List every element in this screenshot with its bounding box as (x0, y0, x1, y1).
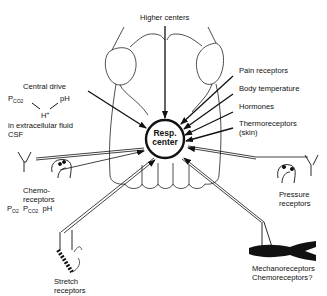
central-drive-extracellular: in extracellular fluid (8, 121, 73, 130)
pressure-receptor-vessels-icon (278, 155, 318, 183)
h-ion-charge: + (46, 110, 49, 116)
chemoreceptors-line2: receptors (23, 195, 55, 204)
pco2-subscript: CO2 (28, 208, 38, 214)
nerve-chemoreceptors (36, 148, 144, 160)
central-drive-pco2: PCO2 (8, 94, 23, 106)
arrow-thermoreceptors (186, 128, 233, 141)
hormones-label: Hormones (239, 102, 274, 111)
chemoreceptor-vessels-icon (18, 152, 71, 178)
pressure-receptors-line2: receptors (279, 199, 311, 208)
arrow-central-drive (88, 91, 146, 128)
chemoreceptors-line1: Chemo- (23, 186, 50, 195)
stretch-receptors-line1: Stretch (54, 277, 78, 286)
central-drive-csf: CSF (8, 130, 23, 139)
body-temperature-label: Body temperature (239, 84, 299, 93)
mechanoreceptors-label: Mechanoreceptors (252, 264, 315, 273)
central-drive-title: Central drive (23, 82, 66, 91)
resp-center-label: Resp. center (148, 129, 182, 147)
pressure-receptors-line1: Pressure (279, 190, 309, 199)
ph-symbol: pH (43, 204, 53, 213)
thermoreceptors-label: Thermoreceptors (239, 119, 297, 128)
stretch-receptor-airway-icon (58, 230, 82, 272)
nerve-pressure (188, 146, 308, 159)
po2-subscript: O2 (12, 208, 19, 214)
higher-centers-label: Higher centers (140, 13, 189, 22)
stretch-receptors-line2: receptors (54, 286, 86, 295)
central-drive-ph: pH (60, 94, 70, 103)
central-drive-h: H+ (41, 109, 49, 120)
pco2-subscript: CO2 (13, 98, 23, 104)
nerve-muscle (182, 158, 264, 222)
muscle-icon (249, 222, 316, 261)
resp-center-line2: center (148, 138, 182, 147)
chemoreceptors-question-label: Chemoreceptors? (252, 273, 312, 282)
chemoreceptors-gases: PO2 PCO2 pH (7, 204, 52, 216)
nerve-stretch (61, 158, 155, 233)
respiratory-control-diagram (0, 0, 327, 296)
pain-receptors-label: Pain receptors (239, 66, 288, 75)
thermoreceptors-skin-label: (skin) (239, 128, 258, 137)
